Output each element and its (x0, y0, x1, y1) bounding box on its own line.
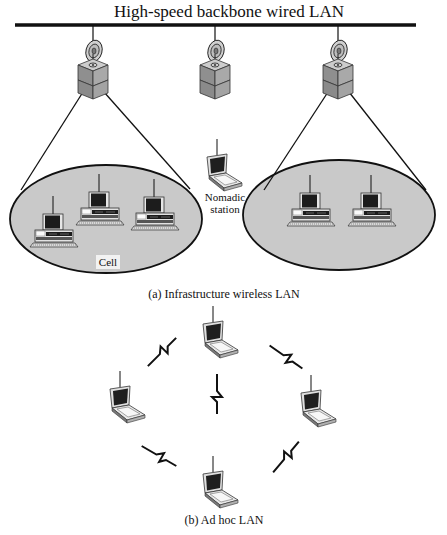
caption-adhoc: (b) Ad hoc LAN (185, 513, 264, 527)
wireless-link-bottom-left (139, 442, 179, 471)
adhoc-laptop-bottom (203, 456, 238, 508)
caption-infrastructure: (a) Infrastructure wireless LAN (148, 287, 300, 301)
access-point-center (200, 25, 230, 99)
cell-label: Cell (99, 256, 117, 268)
wireless-link-bottom-right (269, 438, 302, 475)
adhoc-laptop-right (301, 375, 336, 427)
adhoc-laptop-left (110, 371, 145, 423)
wireless-lan-diagram: High-speed backbone wired LAN Cell Nomad… (0, 0, 447, 535)
access-point-left (78, 25, 108, 99)
wireless-link-top-left (144, 334, 179, 369)
cell-right (243, 160, 435, 270)
nomadic-laptop (207, 139, 242, 191)
wireless-link-center (212, 374, 222, 414)
adhoc-laptop-top (203, 306, 238, 358)
nomadic-label-line2: station (210, 203, 240, 215)
wireless-link-top-right (267, 341, 306, 372)
access-point-right (323, 25, 353, 99)
nomadic-label-line1: Nomadic (205, 191, 245, 203)
backbone-title: High-speed backbone wired LAN (114, 2, 344, 21)
